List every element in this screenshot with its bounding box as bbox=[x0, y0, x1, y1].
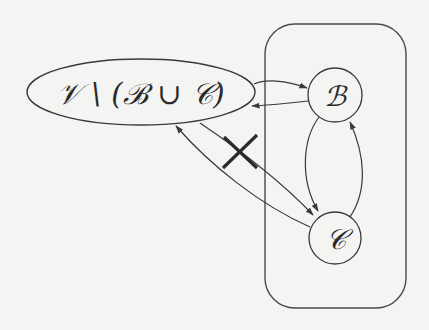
forbidden-cross-icon bbox=[223, 135, 257, 168]
edge-outer-to-b bbox=[254, 81, 307, 88]
diagram-svg bbox=[0, 0, 429, 330]
diagram-canvas: 𝒱 \ (ℬ ∪ 𝒞) ℬ 𝒞 bbox=[0, 0, 429, 330]
node-b-label: ℬ bbox=[324, 83, 346, 111]
edge-c-to-outer bbox=[176, 126, 310, 227]
node-c-label: 𝒞 bbox=[326, 226, 346, 254]
edge-c-to-b bbox=[350, 122, 362, 217]
edge-b-to-outer bbox=[252, 101, 308, 106]
outer-set-label: 𝒱 \ (ℬ ∪ 𝒞) bbox=[57, 80, 225, 109]
group-rounded-rect bbox=[265, 24, 406, 308]
edge-b-to-c bbox=[305, 117, 319, 211]
